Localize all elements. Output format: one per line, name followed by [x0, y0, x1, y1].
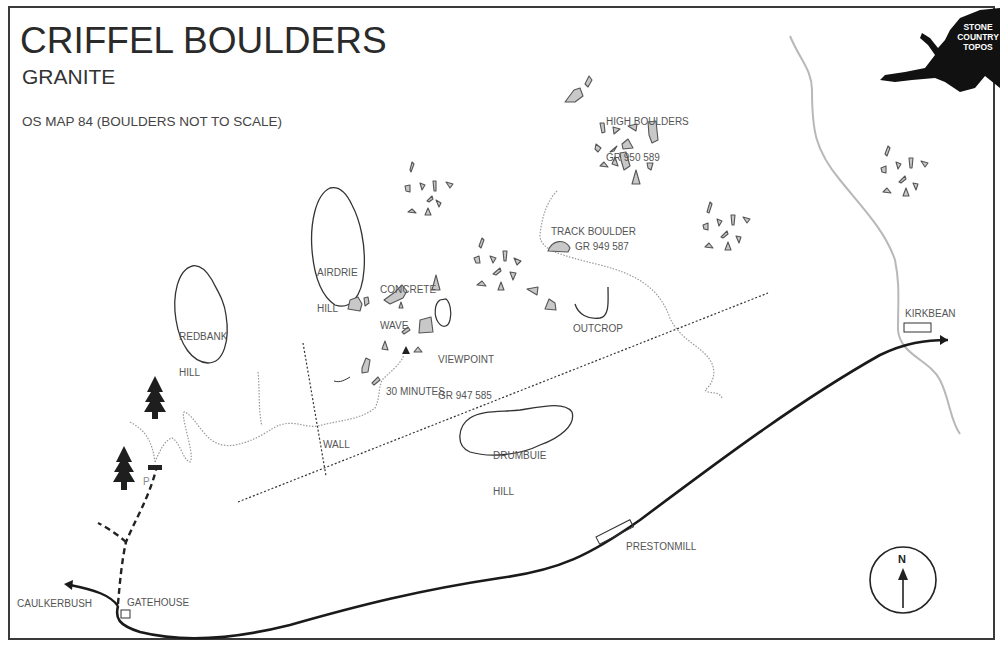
tree-icon [144, 376, 166, 419]
track-boulder-grid-ref: GR 949 587 [575, 241, 629, 253]
viewpoint-grid-ref: GR 947 585 [438, 390, 494, 402]
gatehouse-label: GATEHOUSE [127, 597, 189, 609]
drumbuie-hill-line-1: DRUMBUIE [493, 450, 546, 462]
track-path [540, 191, 722, 398]
high-boulders-name: HIGH BOULDERS [606, 116, 689, 128]
wall-vertical [303, 343, 326, 476]
stream [790, 36, 960, 434]
wall-label: WALL [323, 439, 350, 451]
walk-time-label: 30 MINUTES [386, 386, 445, 398]
footpath-branch [258, 372, 262, 426]
road-arrow-kirkbean [940, 335, 948, 345]
tree-icon [113, 446, 135, 490]
airdrie-hill-line-1: AIRDRIE [317, 267, 358, 279]
map-canvas [0, 0, 1008, 652]
logo-line-3: TOPOS [955, 42, 1001, 52]
kirkbean-building [904, 323, 931, 332]
track-boulder-name: TRACK BOULDER [551, 226, 636, 238]
prestonmill-label: PRESTONMILL [626, 541, 696, 553]
track-to-parking [118, 470, 156, 604]
concrete-wave-line-1: CONCRETE [380, 284, 436, 296]
trail-squiggle [334, 377, 350, 382]
viewpoint-label: VIEWPOINT GR 947 585 [438, 330, 494, 414]
parking-marker [148, 465, 162, 470]
rock-type: GRANITE [22, 66, 115, 87]
map-note: OS MAP 84 (BOULDERS NOT TO SCALE) [22, 115, 282, 129]
map-title: CRIFFEL BOULDERS [20, 22, 387, 59]
logo-line-1: STONE [955, 22, 1001, 32]
concrete-wave-line-2: WAVE [380, 320, 436, 332]
redbank-hill-line-2: HILL [179, 367, 227, 379]
viewpoint-name: VIEWPOINT [438, 354, 494, 366]
road-arrow-caulkerbush [64, 580, 73, 590]
concrete-wave-label: CONCRETE WAVE [380, 260, 436, 344]
footpath-viewpoint-arrow [402, 346, 410, 354]
caulkerbush-label: CAULKERBUSH [17, 598, 92, 610]
parking-label: P [143, 476, 150, 488]
viewpoint-hill-outline [435, 299, 451, 326]
redbank-hill-label: REDBANK HILL [179, 307, 227, 391]
drumbuie-hill-label: DRUMBUIE HILL [493, 426, 546, 510]
compass-north-label: N [898, 553, 906, 565]
high-boulders-label: HIGH BOULDERS GR 950 589 [606, 92, 689, 176]
airdrie-hill-label: AIRDRIE HILL [317, 243, 358, 327]
airdrie-hill-line-2: HILL [317, 303, 358, 315]
drumbuie-hill-line-2: HILL [493, 486, 546, 498]
track-branch [98, 523, 126, 542]
redbank-hill-line-1: REDBANK [179, 331, 227, 343]
outcrop-outline [575, 287, 608, 318]
logo-line-2: COUNTRY [955, 32, 1001, 42]
logo-text: STONE COUNTRY TOPOS [955, 22, 1001, 52]
kirkbean-label: KIRKBEAN [905, 308, 956, 320]
gatehouse-building [121, 610, 130, 618]
high-boulders-grid-ref: GR 950 589 [606, 152, 689, 164]
outcrop-label: OUTCROP [573, 323, 623, 335]
